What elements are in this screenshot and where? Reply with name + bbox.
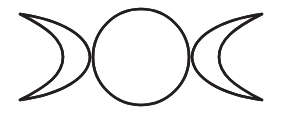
triple-moon-figure: Triple Moon Symbol Triple Goddess (Maide… [0,0,281,114]
triple-moon-svg [0,0,281,114]
